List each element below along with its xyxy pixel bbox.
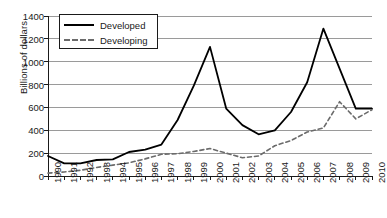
legend-line-sample-solid <box>64 24 94 26</box>
x-tick-label: 2003 <box>263 162 274 183</box>
x-tick-label: 2010 <box>376 162 387 183</box>
chart-legend: Developed Developing <box>59 14 158 49</box>
x-tick-label: 2004 <box>279 162 290 183</box>
x-tick-label: 2007 <box>327 162 338 183</box>
x-tick-label: 1998 <box>182 162 193 183</box>
legend-line-sample-dashed <box>64 39 94 41</box>
x-tick-label: 2006 <box>311 162 322 183</box>
x-tick-label: 2008 <box>344 162 355 183</box>
x-tick-label: 1994 <box>117 162 128 183</box>
x-tick-label: 2000 <box>214 162 225 183</box>
x-tick-label: 2005 <box>295 162 306 183</box>
page-artifact-text <box>18 208 178 215</box>
legend-label-developing: Developing <box>100 35 148 46</box>
x-tick-label: 1997 <box>165 162 176 183</box>
x-tick-label: 1992 <box>84 162 95 183</box>
legend-item-developing: Developing <box>64 33 148 47</box>
x-tick-label: 1999 <box>198 162 209 183</box>
x-tick-label: 2001 <box>230 162 241 183</box>
x-tick-label: 2002 <box>246 162 257 183</box>
x-tick-label: 1990 <box>52 162 63 183</box>
x-tick-label: 1995 <box>133 162 144 183</box>
x-tick-label: 2009 <box>360 162 371 183</box>
x-tick-label: 1993 <box>101 162 112 183</box>
legend-label-developed: Developed <box>100 20 145 31</box>
legend-item-developed: Developed <box>64 18 145 32</box>
x-tick-label: 1991 <box>68 162 79 183</box>
x-tick-label: 1996 <box>149 162 160 183</box>
